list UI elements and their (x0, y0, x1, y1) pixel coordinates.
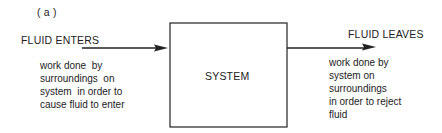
system-label: SYSTEM (205, 70, 249, 82)
inlet-work-note: work done by surroundings on system in o… (40, 59, 125, 111)
fluid-leaves-label: FLUID LEAVES (348, 28, 424, 40)
figure-label: ( a ) (37, 6, 57, 18)
fluid-enters-label: FLUID ENTERS (21, 34, 99, 46)
outlet-work-note: work done by system on surroundings in o… (329, 56, 401, 121)
inlet-arrowhead-icon (154, 45, 168, 52)
outlet-arrowhead-icon (362, 44, 376, 51)
